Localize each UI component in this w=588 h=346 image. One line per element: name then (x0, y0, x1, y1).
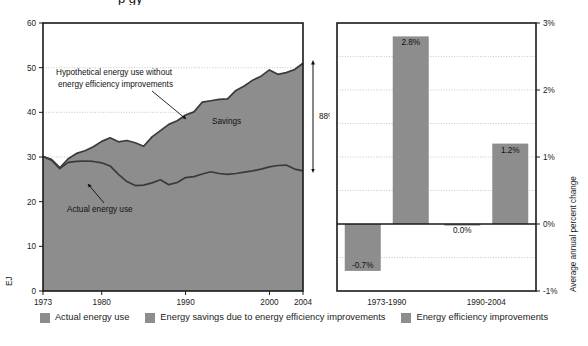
legend-item: Energy efficiency improvements (401, 313, 548, 323)
bar-data-label: 0.0% (453, 226, 472, 235)
bar-data-label: -0.7% (352, 261, 373, 270)
legend-swatch-energy-efficiency-improvements (401, 313, 411, 323)
bar (492, 144, 528, 224)
right-bar-chart: -0.7%2.8%0.0%1.2%3%2%1%0%-1%1973-1990199… (0, 0, 588, 308)
right-y-tick: 2% (543, 86, 555, 95)
right-x-tick: 1990-2004 (467, 298, 507, 307)
figure-root: p gy 010203040506019731980199020002004EJ… (0, 0, 588, 346)
bar (393, 36, 429, 224)
right-y-tick: 3% (543, 19, 555, 28)
right-y-tick: -1% (543, 287, 558, 296)
legend: Actual energy use Energy savings due to … (0, 308, 588, 328)
legend-label-actual-energy-use: Actual energy use (55, 313, 129, 322)
right-y-tick: 1% (543, 153, 555, 162)
legend-swatch-actual-energy-use (40, 313, 50, 323)
right-y-tick: 0% (543, 220, 555, 229)
bar-data-label: 2.8% (401, 38, 420, 47)
legend-swatch-energy-savings (145, 313, 155, 323)
legend-item: Energy savings due to energy efficiency … (145, 313, 385, 323)
legend-label-energy-efficiency-improvements: Energy efficiency improvements (416, 313, 548, 322)
bar-data-label: 1.2% (501, 146, 520, 155)
right-x-tick: 1973-1990 (367, 298, 407, 307)
legend-item: Actual energy use (40, 313, 129, 323)
legend-label-energy-savings: Energy savings due to energy efficiency … (160, 313, 385, 322)
right-y-axis-label: Average annual percent change (569, 176, 578, 292)
